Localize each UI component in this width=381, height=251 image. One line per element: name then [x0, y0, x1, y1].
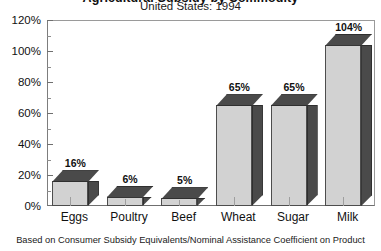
y-axis-tick-major	[47, 51, 53, 52]
y-axis-tick-major	[47, 20, 53, 21]
y-axis-tick-label: 40%	[0, 138, 41, 150]
bar-side-face	[252, 105, 263, 206]
bar-value-label: 6%	[99, 173, 162, 185]
bar-sugar	[271, 94, 318, 206]
y-axis-tick-minor	[47, 36, 51, 37]
bar-value-label: 5%	[153, 174, 216, 186]
bar-value-label: 16%	[44, 157, 107, 169]
y-axis-tick-major	[47, 144, 53, 145]
bar-value-label: 65%	[208, 81, 271, 93]
y-axis-tick-minor	[47, 67, 51, 68]
chart-subtitle: United States: 1994	[0, 0, 381, 12]
bar-front-seam	[70, 197, 71, 206]
chart-footnote: Based on Consumer Subsidy Equivalents/No…	[0, 235, 381, 245]
bar-front-seam	[179, 200, 180, 206]
y-axis-tick-minor	[47, 191, 51, 192]
bar-beef	[161, 187, 208, 206]
bar-side-face	[88, 181, 99, 206]
y-axis-tick-major	[47, 113, 53, 114]
y-axis-tick-label: 0%	[0, 200, 41, 212]
bar-value-label: 65%	[263, 81, 326, 93]
bar-milk	[325, 34, 372, 206]
bar-front-seam	[343, 197, 344, 206]
bar-side-face	[197, 198, 208, 206]
bar-front-face	[325, 45, 361, 206]
bar-front-seam	[234, 197, 235, 206]
y-axis-tick-label: 100%	[0, 45, 41, 57]
y-axis-tick-label: 120%	[0, 14, 41, 26]
y-axis-tick-minor	[47, 129, 51, 130]
bar-chart: Agricultural Subsidy by Commodity United…	[0, 0, 381, 251]
bar-front-seam	[289, 197, 290, 206]
bar-poultry	[107, 186, 154, 206]
bar-front-seam	[125, 199, 126, 206]
y-axis-tick-label: 20%	[0, 169, 41, 181]
y-axis-tick-major	[47, 82, 53, 83]
bar-side-face	[307, 105, 318, 206]
y-axis-tick-label: 60%	[0, 107, 41, 119]
y-axis-tick-label: 80%	[0, 76, 41, 88]
x-axis-category-label: Milk	[312, 210, 381, 224]
bar-side-face	[361, 45, 372, 206]
bar-side-face	[143, 197, 154, 206]
bar-front-face	[271, 105, 307, 206]
bar-value-label: 104%	[317, 21, 380, 33]
y-axis-tick-minor	[47, 98, 51, 99]
bar-eggs	[52, 170, 99, 206]
bar-wheat	[216, 94, 263, 206]
bar-front-face	[216, 105, 252, 206]
